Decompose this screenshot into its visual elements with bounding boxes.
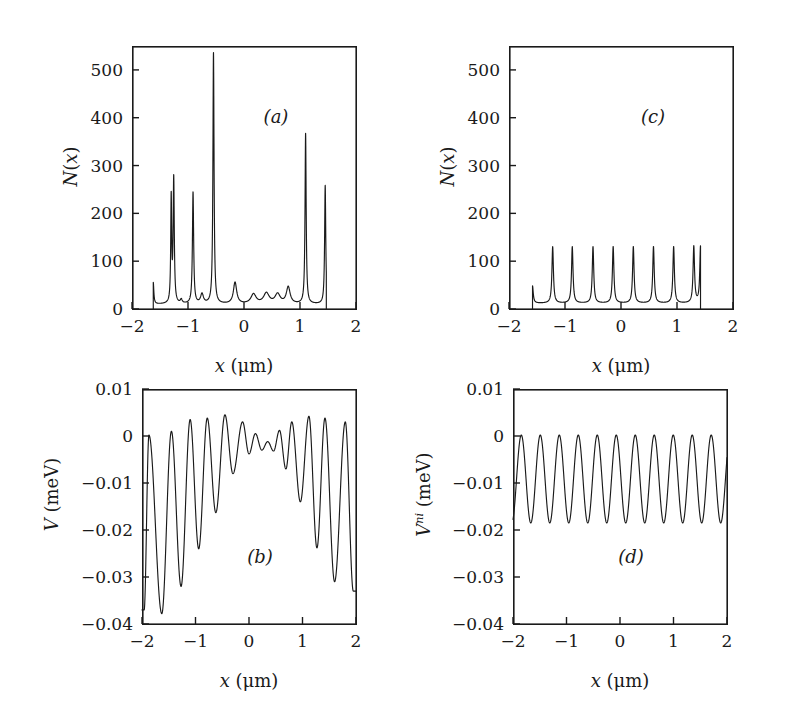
x-tick-label: 1: [297, 631, 308, 651]
panel-b-plot: (b): [142, 389, 357, 625]
y-tick-label: −0.02: [452, 520, 504, 540]
panel-b-yticklabels-group: −0.04−0.03−0.02−0.0100.01: [70, 389, 142, 625]
y-tick-label: −0.02: [81, 520, 133, 540]
y-tick-label: 0.01: [95, 379, 133, 399]
panel-c: (c) −2−1012 x (μm) 0100200300400500 N(x): [509, 46, 734, 310]
panel-c-xticklabels: −2−1012: [496, 316, 738, 336]
panel-d-frame: [514, 390, 727, 624]
panel-d-ylabel: Vni (meV): [413, 425, 434, 565]
x-tick-label: 2: [351, 631, 362, 651]
x-tick-label: −1: [183, 631, 208, 651]
x-tick-label: −2: [129, 631, 154, 651]
panel-d-ylabel-wrap: Vni (meV): [413, 425, 434, 565]
y-tick-label: 0: [112, 299, 123, 319]
panel-a-xtitle: x (μm): [215, 355, 274, 376]
panel-b-yticklabels: −0.04−0.03−0.02−0.0100.01: [81, 379, 133, 634]
y-tick-label: −0.01: [452, 473, 504, 493]
x-tick-label: −2: [119, 316, 144, 336]
y-tick-label: 300: [468, 156, 500, 176]
panel-b-xaxis: −2−1012 x (μm): [142, 625, 357, 713]
x-tick-label: −2: [496, 316, 521, 336]
panel-c-xtitle: x (μm): [592, 355, 651, 376]
y-tick-label: −0.04: [452, 614, 504, 634]
x-tick-label: −1: [554, 631, 579, 651]
panel-d-ticks: [513, 389, 727, 624]
y-tick-label: 400: [91, 108, 123, 128]
panel-d-xtitle: x (μm): [591, 670, 650, 691]
x-tick-label: 2: [351, 316, 362, 336]
panel-a-curve: [153, 53, 326, 309]
x-tick-label: 0: [615, 631, 626, 651]
x-tick-label: 2: [728, 316, 739, 336]
panel-b-curve: [142, 415, 356, 614]
y-tick-label: −0.01: [81, 473, 133, 493]
panel-a-xticklabels: −2−1012: [119, 316, 361, 336]
panel-c-plot: (c): [509, 46, 734, 310]
panel-a-plot: (a): [132, 46, 357, 310]
x-tick-label: 2: [722, 631, 733, 651]
y-tick-label: −0.04: [81, 614, 133, 634]
y-tick-label: 500: [468, 60, 500, 80]
panel-c-ylabel: N(x): [437, 107, 458, 227]
panel-b-tag: (b): [247, 546, 273, 567]
y-tick-label: 0: [489, 299, 500, 319]
panel-c-yticklabels: 0100200300400500: [468, 60, 500, 319]
y-tick-label: 100: [91, 251, 123, 271]
panel-c-tag: (c): [641, 106, 665, 127]
x-tick-label: −2: [500, 631, 525, 651]
y-tick-label: 500: [91, 60, 123, 80]
panel-b-xtitle: x (μm): [220, 670, 279, 691]
y-tick-label: 100: [468, 251, 500, 271]
panel-d-tag: (d): [618, 546, 644, 567]
x-tick-label: 0: [244, 631, 255, 651]
y-tick-label: −0.03: [81, 567, 133, 587]
x-tick-label: −1: [552, 316, 577, 336]
panel-a: (a) −2−1012 x (μm) 0100200300400500 N(x): [132, 46, 357, 310]
x-tick-label: 0: [616, 316, 627, 336]
panel-c-xaxis: −2−1012 x (μm): [509, 310, 734, 400]
panel-a-xaxis: −2−1012 x (μm): [132, 310, 357, 400]
y-tick-label: 0.01: [466, 379, 504, 399]
x-tick-label: 0: [239, 316, 250, 336]
panel-a-yticklabels: 0100200300400500: [91, 60, 123, 319]
y-tick-label: 0: [122, 426, 133, 446]
y-tick-label: 200: [91, 203, 123, 223]
panel-a-ticks: [132, 70, 356, 309]
figure-root: (a) −2−1012 x (μm) 0100200300400500 N(x)…: [0, 0, 791, 713]
y-tick-label: −0.03: [452, 567, 504, 587]
x-tick-label: 1: [672, 316, 683, 336]
y-tick-label: 400: [468, 108, 500, 128]
panel-b-ylabel-wrap: V (meV): [41, 430, 62, 560]
panel-b-ylabel: V (meV): [41, 430, 62, 560]
x-tick-label: 1: [668, 631, 679, 651]
x-tick-label: 1: [295, 316, 306, 336]
y-tick-label: 300: [91, 156, 123, 176]
panel-d-xaxis: −2−1012 x (μm): [513, 625, 728, 713]
panel-d-xticklabels: −2−1012: [500, 631, 732, 651]
panel-d-plot: (d): [513, 389, 728, 625]
panel-a-ylabel: N(x): [60, 107, 81, 227]
panel-c-ylabel-wrap: N(x): [437, 107, 458, 227]
y-tick-label: 200: [468, 203, 500, 223]
panel-d-curve: [513, 435, 727, 523]
panel-d-yticklabels: −0.04−0.03−0.02−0.0100.01: [452, 379, 504, 634]
y-tick-label: 0: [493, 426, 504, 446]
panel-b-xticklabels: −2−1012: [129, 631, 361, 651]
panel-a-frame: [133, 47, 356, 309]
panel-d-yticklabels-group: −0.04−0.03−0.02−0.0100.01: [441, 389, 513, 625]
panel-d: (d) −2−1012 x (μm) −0.04−0.03−0.02−0.010…: [513, 389, 728, 625]
panel-b: (b) −2−1012 x (μm) −0.04−0.03−0.02−0.010…: [142, 389, 357, 625]
panel-c-curve: [533, 246, 701, 309]
x-tick-label: −1: [175, 316, 200, 336]
panel-a-tag: (a): [264, 106, 289, 127]
panel-a-ylabel-wrap: N(x): [60, 107, 81, 227]
